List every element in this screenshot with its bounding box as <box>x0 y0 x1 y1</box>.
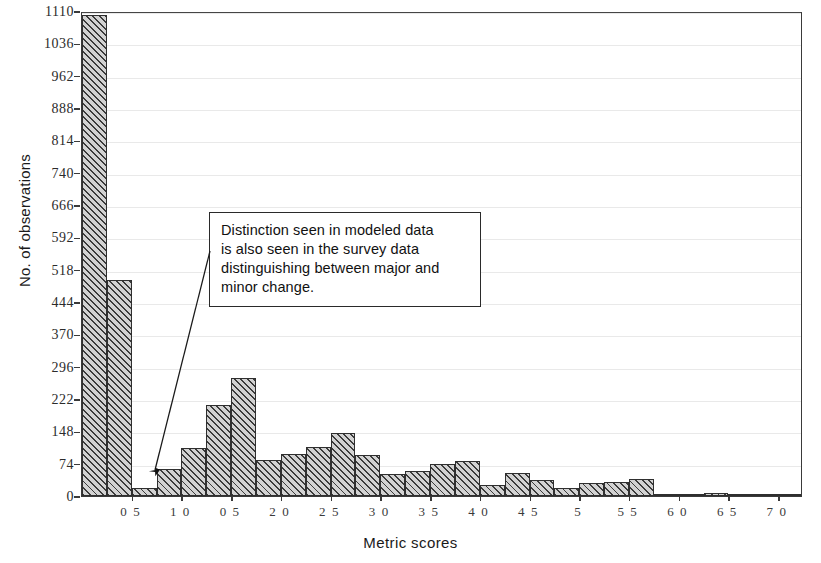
annotation-line-2: is also seen in the survey data <box>221 240 470 259</box>
gridline <box>82 207 801 208</box>
x-tick-mark <box>281 496 283 501</box>
histogram-bar <box>132 488 157 496</box>
histogram-bar <box>157 469 182 496</box>
histogram-bar <box>306 447 331 496</box>
histogram-bar <box>181 448 206 496</box>
histogram-bar <box>231 378 256 496</box>
gridline <box>82 110 801 111</box>
histogram-bar <box>704 493 729 496</box>
y-tick-mark <box>74 270 80 272</box>
gridline <box>82 142 801 143</box>
x-tick-mark <box>728 496 730 501</box>
x-tick-mark <box>380 496 382 501</box>
y-tick-label: 666 <box>14 198 74 214</box>
histogram-bar <box>82 15 107 496</box>
y-tick-label: 518 <box>14 263 74 279</box>
histogram-bar <box>629 479 654 496</box>
y-tick-label: 740 <box>14 166 74 182</box>
y-tick-label: 888 <box>14 101 74 117</box>
histogram-bar <box>281 454 306 496</box>
y-tick-label: 592 <box>14 230 74 246</box>
histogram-bar <box>679 494 704 496</box>
y-tick-mark <box>74 399 80 401</box>
histogram-figure: No. of observations 11101036962888814740… <box>0 0 821 563</box>
histogram-bar <box>380 474 405 496</box>
histogram-bar <box>604 482 629 496</box>
histogram-bar <box>778 494 801 496</box>
gridline <box>82 45 801 46</box>
histogram-bar <box>355 455 380 497</box>
histogram-bar <box>728 494 753 496</box>
x-tick-mark <box>480 496 482 501</box>
y-tick-mark <box>74 335 80 337</box>
histogram-bar <box>530 480 555 496</box>
x-tick-mark <box>231 496 233 501</box>
y-tick-mark <box>74 302 80 304</box>
x-tick-mark <box>430 496 432 501</box>
gridline <box>82 369 801 370</box>
y-tick-label: 814 <box>14 133 74 149</box>
gridline <box>82 13 801 14</box>
x-tick-label: 7 0 <box>747 504 807 520</box>
y-tick-mark <box>74 108 80 110</box>
x-axis-title: Metric scores <box>0 534 821 551</box>
annotation-line-4: minor change. <box>221 278 470 297</box>
x-tick-mark <box>629 496 631 501</box>
gridline <box>82 336 801 337</box>
gridline <box>82 175 801 176</box>
gridline <box>82 78 801 79</box>
y-tick-mark <box>74 432 80 434</box>
y-tick-label: 296 <box>14 360 74 376</box>
gridline <box>82 433 801 434</box>
histogram-bar <box>480 485 505 496</box>
histogram-bar <box>455 461 480 496</box>
annotation-line-3: distinguishing between major and <box>221 259 470 278</box>
y-tick-label: 74 <box>14 457 74 473</box>
y-tick-label: 1036 <box>14 36 74 52</box>
y-tick-mark <box>74 76 80 78</box>
histogram-bar <box>753 494 778 496</box>
y-tick-mark <box>74 44 80 46</box>
y-tick-label: 0 <box>14 489 74 505</box>
histogram-bar <box>654 494 679 496</box>
gridline <box>82 401 801 402</box>
histogram-bar <box>505 473 530 496</box>
y-tick-mark <box>74 238 80 240</box>
x-tick-mark <box>181 496 183 501</box>
y-tick-mark <box>74 141 80 143</box>
x-tick-mark <box>778 496 780 501</box>
y-axis-tick-labels: 1110103696288881474066659251844437029622… <box>10 12 74 497</box>
y-tick-mark <box>74 367 80 369</box>
y-tick-label: 148 <box>14 424 74 440</box>
histogram-bar <box>206 405 231 496</box>
y-tick-mark <box>74 173 80 175</box>
y-tick-label: 962 <box>14 69 74 85</box>
y-tick-mark <box>74 496 80 498</box>
histogram-bar <box>256 460 281 496</box>
histogram-bar <box>430 464 455 496</box>
histogram-bar <box>579 483 604 496</box>
x-tick-mark <box>331 496 333 501</box>
histogram-bar <box>331 433 356 496</box>
y-tick-label: 370 <box>14 327 74 343</box>
y-tick-mark <box>74 11 80 13</box>
histogram-bar <box>554 488 579 496</box>
x-tick-mark <box>132 496 134 501</box>
y-tick-mark <box>74 464 80 466</box>
histogram-bar <box>405 471 430 496</box>
y-tick-mark <box>74 205 80 207</box>
y-tick-label: 444 <box>14 295 74 311</box>
annotation-callout: Distinction seen in modeled data is also… <box>209 212 481 307</box>
histogram-bar <box>107 280 132 496</box>
annotation-line-1: Distinction seen in modeled data <box>221 221 470 240</box>
x-tick-mark <box>530 496 532 501</box>
x-tick-mark <box>579 496 581 501</box>
x-tick-mark <box>679 496 681 501</box>
y-tick-label: 1110 <box>14 4 74 20</box>
y-tick-label: 222 <box>14 392 74 408</box>
